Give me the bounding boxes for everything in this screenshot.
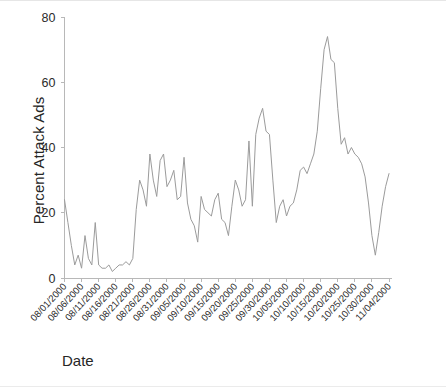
y-tick-group: 020406080	[42, 11, 65, 286]
y-tick-label: 60	[42, 76, 56, 90]
y-tick-label: 0	[49, 272, 56, 286]
y-tick-label: 20	[42, 206, 56, 220]
y-tick-label: 80	[42, 11, 56, 25]
chart-figure: Percent Attack Ads Date 020406080 08/01/…	[0, 0, 446, 387]
x-axis-group: 08/01/200008/06/200008/11/200008/16/2000…	[28, 278, 393, 323]
y-tick-label: 40	[42, 141, 56, 155]
x-tick-group: 08/01/200008/06/200008/11/200008/16/2000…	[28, 278, 393, 323]
data-series-line	[65, 37, 390, 272]
y-axis-group: 020406080	[42, 11, 65, 286]
plot-area: 020406080 08/01/200008/06/200008/11/2000…	[0, 0, 446, 387]
